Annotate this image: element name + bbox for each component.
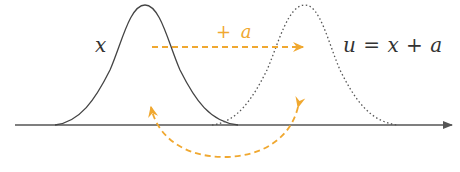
original-variable-label: x <box>95 33 106 57</box>
a-symbol: a <box>430 33 442 57</box>
transformed-variable-label: u = x + a <box>343 33 442 57</box>
x-symbol: x <box>387 33 398 57</box>
translation-diagram: x + a u = x + a <box>0 0 460 172</box>
plus-sign: + <box>406 33 423 57</box>
shift-sign: + <box>216 21 231 42</box>
shift-label: + a <box>216 21 252 42</box>
u-symbol: u <box>343 33 356 57</box>
round-trip-arc <box>151 107 298 157</box>
equals-sign: = <box>363 33 380 57</box>
original-distribution-curve <box>55 5 238 125</box>
shift-variable: a <box>241 21 252 42</box>
